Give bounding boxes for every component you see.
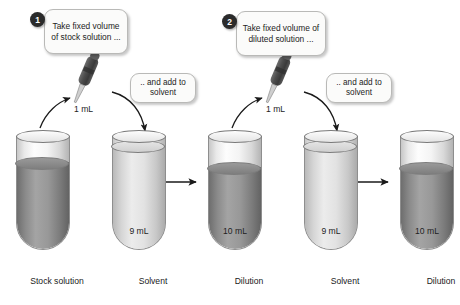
tube-1-meniscus xyxy=(15,157,69,170)
test-tube-5: 10 mL xyxy=(400,130,454,250)
step-1-add-callout: .. and add to solvent xyxy=(130,73,196,103)
tube-3-volume-label: 10 mL xyxy=(208,226,262,236)
step-2-badge: 2 xyxy=(222,14,237,29)
tube-4-caption: Solvent xyxy=(304,276,386,286)
tube-1-liquid xyxy=(17,162,69,249)
tube-3-caption: Dilution xyxy=(208,276,290,286)
tube-5-liquid xyxy=(401,167,453,249)
tube-1-body xyxy=(16,136,70,250)
step-1-callout: Take fixed volume of stock solution ... xyxy=(44,9,128,54)
step-2-add-callout: .. and add to solvent xyxy=(326,73,392,103)
pipette-2-volume-label: 1 mL xyxy=(266,104,285,114)
tube-3-rim xyxy=(208,130,262,143)
tube-1-rim xyxy=(16,130,70,143)
tube-5-meniscus xyxy=(399,162,453,175)
test-tube-2: 9 mL xyxy=(112,130,166,250)
curved-arrow-draw-2 xyxy=(232,98,262,128)
tube-5-rim xyxy=(400,130,454,143)
pipette-1-volume-label: 1 mL xyxy=(74,104,93,114)
tube-5-volume-label: 10 mL xyxy=(400,226,454,236)
step-2-callout: Take fixed volume of diluted solution ..… xyxy=(236,11,326,56)
tube-4-volume-label: 9 mL xyxy=(304,226,358,236)
tube-4-rim xyxy=(304,130,358,143)
tube-5-caption: Dilution xyxy=(400,276,460,286)
test-tube-1 xyxy=(16,130,70,250)
tube-3-liquid xyxy=(209,167,261,249)
step-1-callout-text: Take fixed volume of stock solution ... xyxy=(50,21,122,42)
test-tube-4: 9 mL xyxy=(304,130,358,250)
tube-2-volume-label: 9 mL xyxy=(112,226,166,236)
step-1-badge: 1 xyxy=(30,12,45,27)
tube-3-meniscus xyxy=(207,162,261,175)
step-1-add-callout-text: .. and add to solvent xyxy=(136,78,190,99)
tube-2-rim xyxy=(112,130,166,143)
step-2-add-callout-text: .. and add to solvent xyxy=(332,78,386,99)
step-2-callout-text: Take fixed volume of diluted solution ..… xyxy=(242,23,320,44)
test-tube-3: 10 mL xyxy=(208,130,262,250)
tube-1-caption: Stock solution xyxy=(16,276,98,286)
curved-arrow-draw-1 xyxy=(40,98,70,128)
tube-2-caption: Solvent xyxy=(112,276,194,286)
